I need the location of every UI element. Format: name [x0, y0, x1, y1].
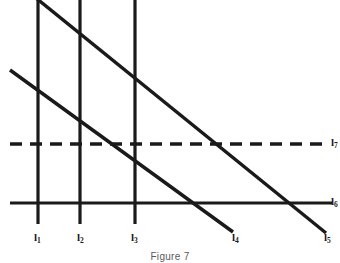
label-l7: l7	[331, 137, 338, 148]
line-l4	[10, 70, 233, 232]
figure-drawing	[0, 0, 340, 263]
label-l1-subscript: 1	[37, 236, 41, 245]
label-l5: l5	[324, 232, 331, 243]
label-l4: l4	[232, 232, 239, 243]
vertical-lines-group	[38, 0, 135, 224]
label-l3-subscript: 3	[134, 236, 138, 245]
label-l3: l3	[131, 232, 138, 243]
oblique-lines-group	[10, 0, 326, 233]
figure-container: l1 l2 l3 l4 l5 l6 l7 Figure 7	[0, 0, 340, 263]
label-l2-subscript: 2	[80, 236, 84, 245]
label-l2: l2	[77, 232, 84, 243]
figure-caption: Figure 7	[0, 251, 340, 263]
label-l4-subscript: 4	[235, 236, 239, 245]
label-l7-subscript: 7	[334, 141, 338, 150]
label-l6: l6	[331, 196, 338, 207]
label-l5-subscript: 5	[327, 236, 331, 245]
label-l6-subscript: 6	[334, 200, 338, 209]
label-l1: l1	[34, 232, 41, 243]
horizontal-lines-group	[10, 144, 332, 203]
